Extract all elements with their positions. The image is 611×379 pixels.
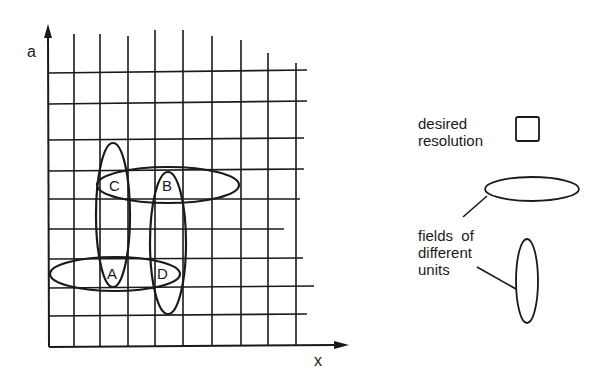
y-axis-label: a [27, 43, 36, 60]
leader-line-horizontal [463, 196, 487, 217]
resolution-square-icon [516, 117, 539, 141]
legend-ellipse-vertical [516, 239, 538, 323]
cell-label-c: C [109, 177, 120, 194]
leader-line-vertical [477, 267, 516, 289]
legend-desired-line1: desired [418, 115, 467, 132]
cell-label-d: D [157, 265, 168, 282]
y-axis-arrow-icon [44, 24, 52, 38]
legend-fields-line1: fields of [418, 227, 474, 244]
grid-hline [48, 138, 304, 140]
legend-desired-line2: resolution [418, 132, 483, 149]
x-axis [49, 345, 336, 347]
x-axis-label: x [314, 352, 322, 369]
cell-label-b: B [162, 177, 172, 194]
x-axis-arrow-icon [334, 341, 349, 349]
diagram-canvas [0, 0, 611, 379]
cell-label-a: A [107, 265, 117, 282]
grid [48, 30, 314, 346]
y-axis [48, 34, 49, 347]
legend-fields-line2: different [418, 244, 472, 261]
legend-fields-line3: units [418, 261, 450, 278]
grid-hline [48, 169, 304, 171]
legend-ellipse-horizontal [485, 177, 579, 201]
axes [48, 34, 336, 347]
